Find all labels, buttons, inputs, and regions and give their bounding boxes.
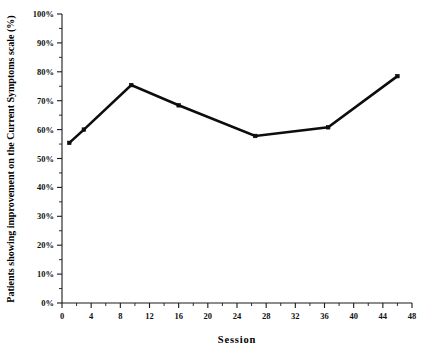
x-tick-label: 8	[118, 311, 122, 321]
x-tick-label: 16	[174, 311, 183, 321]
y-tick-label: 50%	[37, 154, 54, 164]
x-axis-title: Session	[218, 334, 256, 345]
data-point-marker	[67, 141, 71, 145]
y-axis-title: Patients showing improvement on the Curr…	[5, 15, 17, 302]
x-tick-label: 28	[262, 311, 271, 321]
data-point-marker	[253, 134, 257, 138]
y-tick-label: 90%	[37, 38, 54, 48]
x-tick-label: 4	[89, 311, 94, 321]
x-tick-label: 20	[204, 311, 213, 321]
x-tick-label: 44	[379, 311, 388, 321]
data-point-marker	[82, 128, 86, 132]
y-tick-label: 100%	[33, 9, 54, 19]
x-tick-label: 40	[349, 311, 358, 321]
x-tick-label: 32	[291, 311, 300, 321]
chart-background	[0, 0, 430, 354]
data-point-marker	[396, 74, 400, 78]
line-chart: 0%10%20%30%40%50%60%70%80%90%100% 048121…	[0, 0, 430, 354]
y-tick-label: 60%	[37, 125, 54, 135]
x-tick-label: 36	[320, 311, 329, 321]
y-tick-label: 70%	[37, 96, 54, 106]
x-tick-label: 12	[145, 311, 154, 321]
y-tick-label: 0%	[41, 298, 54, 308]
data-point-marker	[177, 104, 181, 108]
y-tick-label: 20%	[37, 240, 54, 250]
y-tick-label: 30%	[37, 211, 54, 221]
x-tick-label: 48	[408, 311, 417, 321]
y-tick-label: 80%	[37, 67, 54, 77]
y-tick-label: 40%	[37, 182, 54, 192]
y-tick-label: 10%	[37, 269, 54, 279]
x-tick-label: 24	[233, 311, 242, 321]
x-tick-label: 0	[60, 311, 64, 321]
data-point-marker	[326, 125, 330, 129]
chart-canvas: 0%10%20%30%40%50%60%70%80%90%100% 048121…	[0, 0, 430, 354]
data-point-marker	[129, 83, 133, 87]
